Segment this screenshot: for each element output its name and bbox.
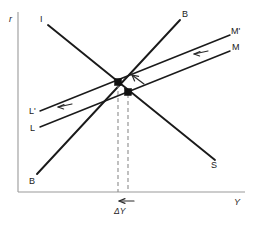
droplines-group [118,84,128,192]
curve-label-b-bottom: B [29,176,35,186]
y-axis-label: r [9,14,13,24]
is-lm-diagram: r Y I S B B L' L M' M ΔY [0,0,266,227]
curve-bb [37,20,180,174]
delta-y-arrow-icon [119,199,134,204]
curve-label-s: S [211,160,217,170]
delta-y-label: ΔY [113,206,127,216]
curve-label-m: M [232,42,240,52]
shift-arrow-lower-curve-icon [58,104,72,109]
curve-lm [40,51,230,127]
curve-label-m-prime: M' [231,26,240,36]
curve-lm-prime [40,35,230,111]
curve-label-i: I [40,14,43,24]
figure-container: r Y I S B B L' L M' M ΔY [0,0,266,227]
equilibrium-marker-new [115,79,122,86]
curve-label-l: L [30,123,35,133]
x-axis-label: Y [234,197,241,207]
curve-label-l-prime: L' [29,106,36,116]
curve-label-b-top: B [182,9,188,19]
shift-arrow-equilibrium-icon [132,75,144,84]
shift-arrow-upper-curve-icon [194,51,208,56]
equilibrium-marker-old [125,89,132,96]
